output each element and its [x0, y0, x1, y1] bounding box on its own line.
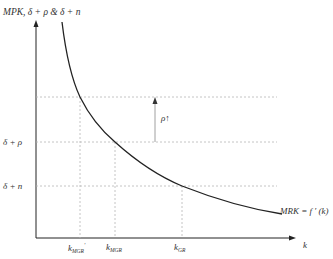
k-gr-label: kGR: [174, 242, 185, 253]
x-axis-label: k: [303, 240, 307, 250]
k-mgr-label: kMGR: [106, 242, 122, 253]
k-mgr-prime-label: kMGR′: [68, 242, 85, 254]
diagram-canvas: [0, 0, 333, 259]
delta-n-label: δ + n: [3, 181, 22, 191]
k-sup: ′: [84, 242, 85, 248]
x-axis-arrow-icon: [289, 236, 296, 241]
rho-arrow-head-icon: [153, 97, 158, 104]
curve-label: MRK = f ′ (k): [280, 206, 329, 216]
y-axis-label: MPK, δ + ρ & δ + n: [3, 7, 80, 17]
k-sub: GR: [178, 247, 185, 253]
k-sub: MGR: [110, 247, 122, 253]
mpk-curve: [62, 22, 282, 214]
delta-rho-label: δ + ρ: [3, 137, 22, 147]
k-sub: MGR: [72, 248, 84, 254]
y-axis-arrow-icon: [34, 20, 39, 27]
rho-increase-label: ρ↑: [161, 113, 170, 123]
